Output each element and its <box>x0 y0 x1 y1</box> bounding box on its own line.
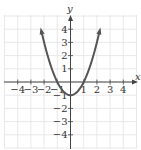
y-tick-label: −4 <box>53 129 68 140</box>
x-tick-label: 4 <box>120 84 126 95</box>
y-tick-label: 4 <box>61 24 67 35</box>
y-tick-label: 2 <box>61 50 67 61</box>
y-tick-label: −1 <box>53 90 68 101</box>
y-tick-label: −3 <box>53 116 68 127</box>
y-tick-label: 1 <box>61 63 67 74</box>
y-tick-label: 3 <box>61 37 67 48</box>
x-axis-label: x <box>135 71 141 82</box>
y-axis-label: y <box>66 3 73 14</box>
x-tick-label: 3 <box>107 84 113 95</box>
axes <box>4 15 138 149</box>
parabola-chart: −4−3−2−112344321−1−2−3−4 x y <box>0 0 141 150</box>
y-tick-label: −2 <box>53 103 68 114</box>
x-tick-label: 2 <box>94 84 100 95</box>
